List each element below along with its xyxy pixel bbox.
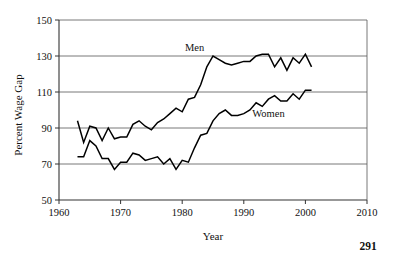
series-annotation-men: Men (185, 42, 205, 53)
y-tick-label: 150 (36, 15, 52, 26)
y-tick-label: 70 (42, 159, 53, 170)
wage-gap-line-chart: 507090110130150 196019701980199020002010… (0, 0, 398, 260)
x-tick-labels: 196019701980199020002010 (49, 207, 378, 218)
plot-frame (59, 20, 367, 200)
y-tick-label: 90 (42, 123, 53, 134)
y-tick-label: 50 (42, 195, 53, 206)
series-line-women (77, 90, 311, 169)
y-axis-title: Percent Wage Gap (12, 74, 24, 156)
x-tick-label: 1980 (172, 207, 193, 218)
figure-container: 507090110130150 196019701980199020002010… (0, 0, 398, 260)
x-axis-title: Year (203, 230, 224, 242)
x-tick-label: 2010 (357, 207, 378, 218)
plot-gridlines (59, 20, 367, 164)
series-line-men (77, 54, 311, 142)
x-tick-label: 1960 (49, 207, 70, 218)
series-annotation-women: Women (252, 108, 285, 119)
x-tick-label: 2000 (295, 207, 316, 218)
axis-ticks (55, 20, 367, 204)
y-tick-label: 130 (36, 51, 52, 62)
x-tick-label: 1970 (110, 207, 131, 218)
series-annotations: MenWomen (185, 42, 285, 120)
y-tick-label: 110 (37, 87, 52, 98)
page-number: 291 (359, 240, 377, 252)
x-tick-label: 1990 (233, 207, 254, 218)
y-tick-labels: 507090110130150 (36, 15, 52, 206)
